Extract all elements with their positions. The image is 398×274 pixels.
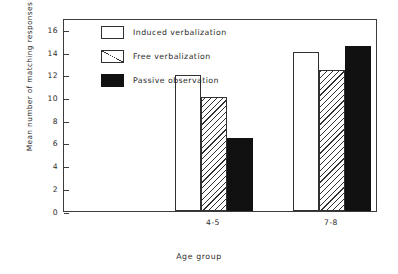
y-axis-tick-label: 12 [48, 71, 58, 80]
tick-mark [64, 99, 69, 100]
y-axis-tick-label: 6 [53, 139, 58, 148]
tick-mark [64, 190, 69, 191]
y-axis-tick-label: 4 [53, 162, 58, 171]
y-axis-tick-label: 16 [48, 26, 58, 35]
bar-4-5-hatch [201, 97, 227, 211]
bar-7-8-solid [345, 46, 371, 211]
tick-mark [64, 213, 69, 214]
legend-item: Passive observation [101, 74, 219, 87]
y-axis-title: Mean number of matching responses [25, 0, 34, 172]
legend-swatch-solid [101, 74, 124, 87]
tick-mark [64, 167, 69, 168]
legend-item: Induced verbalization [101, 26, 227, 39]
tick-mark [64, 31, 69, 32]
legend-item: Free verbalization [101, 50, 211, 63]
legend-swatch-hatch [101, 50, 124, 63]
tick-mark [64, 122, 69, 123]
bar-7-8-hatch [319, 70, 345, 211]
legend-label: Passive observation [133, 76, 219, 85]
y-axis-tick-label: 0 [53, 208, 58, 217]
x-axis-group-label: 4-5 [206, 218, 220, 227]
y-axis-tick-label: 2 [53, 185, 58, 194]
tick-mark [64, 76, 69, 77]
tick-mark [64, 54, 69, 55]
bar-7-8-open [293, 52, 319, 211]
x-axis-title: Age group [0, 252, 398, 261]
legend-label: Free verbalization [133, 52, 211, 61]
y-axis-tick-label: 10 [48, 94, 58, 103]
tick-mark [64, 144, 69, 145]
y-axis-tick-label: 8 [53, 117, 58, 126]
legend-swatch-open [101, 26, 124, 39]
x-axis-group-label: 7-8 [324, 218, 338, 227]
plot-area: 0246810121416 Induced verbalizationFree … [63, 19, 377, 212]
bar-4-5-open [175, 75, 201, 211]
legend-label: Induced verbalization [133, 28, 227, 37]
chart-figure: Mean number of matching responses Age gr… [0, 0, 398, 274]
y-axis-tick-label: 14 [48, 49, 58, 58]
bar-4-5-solid [227, 138, 253, 211]
